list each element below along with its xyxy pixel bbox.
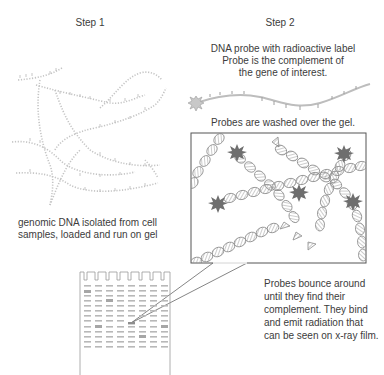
genomic-dna-strands	[12, 68, 166, 205]
diagram-graphics	[0, 0, 384, 375]
starburst-icon	[188, 96, 204, 111]
electrophoresis-gel-icon	[80, 272, 170, 375]
dna-probe	[188, 84, 370, 111]
gel-bands	[84, 285, 168, 348]
probe-wash-box	[186, 132, 368, 269]
